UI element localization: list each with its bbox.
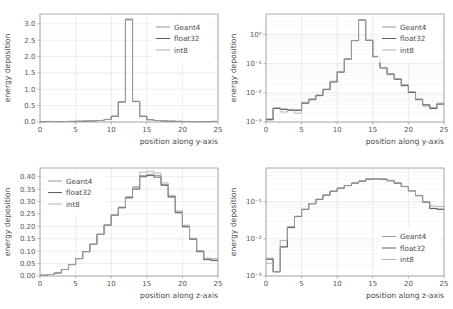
y-axis-label: energy deposition xyxy=(3,188,12,257)
panel-bottom-left: 0.000.050.100.150.200.250.300.350.400510… xyxy=(0,154,227,309)
x-tick-label: 0 xyxy=(264,126,268,134)
y-tick-label: 0.5 xyxy=(24,102,35,110)
y-tick-label: 0.30 xyxy=(20,198,36,206)
x-tick-label: 25 xyxy=(214,280,223,288)
y-tick-label: 0.25 xyxy=(20,210,36,218)
legend: Geant4float32int8 xyxy=(378,228,440,273)
x-tick-label: 15 xyxy=(368,126,377,134)
x-tick-label: 15 xyxy=(142,126,151,134)
x-tick-label: 20 xyxy=(178,280,187,288)
y-tick-label: 1.0 xyxy=(24,86,35,94)
legend-label-float32: float32 xyxy=(66,188,91,197)
panel-bottom-right: 10⁻³10⁻²10⁻¹0510152025position along z-a… xyxy=(226,154,453,309)
x-tick-label: 10 xyxy=(107,126,116,134)
y-tick-label: 0.20 xyxy=(20,223,36,231)
x-tick-label: 15 xyxy=(142,280,151,288)
legend-label-int8: int8 xyxy=(400,255,414,264)
x-tick-label: 5 xyxy=(299,280,303,288)
y-tick-label: 0.15 xyxy=(20,235,36,243)
y-axis-label: energy deposition xyxy=(229,188,238,257)
panel-top-right: 10⁻³10⁻²10⁻¹10⁰0510152025position along … xyxy=(226,0,453,155)
x-tick-label: 0 xyxy=(38,280,42,288)
x-tick-label: 5 xyxy=(73,280,77,288)
y-tick-label: 0.40 xyxy=(20,173,36,181)
legend: Geant4float32int8 xyxy=(152,18,214,63)
x-axis-label: position along z-axis xyxy=(140,291,218,300)
x-tick-label: 0 xyxy=(264,280,268,288)
x-tick-label: 15 xyxy=(368,280,377,288)
x-tick-label: 5 xyxy=(299,126,303,134)
panel-top-left: 0.00.51.01.52.02.53.00510152025position … xyxy=(0,0,227,155)
y-tick-label: 2.0 xyxy=(24,53,35,61)
y-tick-label: 10⁻³ xyxy=(246,272,262,280)
y-tick-label: 0.00 xyxy=(20,272,36,280)
legend-label-int8: int8 xyxy=(400,46,414,55)
x-tick-label: 10 xyxy=(333,126,342,134)
x-tick-label: 10 xyxy=(107,280,116,288)
y-tick-label: 0.35 xyxy=(20,186,36,194)
x-axis-label: position along y-axis xyxy=(366,137,444,146)
y-tick-label: 1.5 xyxy=(24,69,35,77)
y-tick-label: 10⁻² xyxy=(246,89,262,97)
legend: Geant4float32int8 xyxy=(378,18,440,63)
legend-label-int8: int8 xyxy=(174,46,188,55)
y-tick-label: 0.0 xyxy=(24,118,35,126)
x-tick-label: 0 xyxy=(38,126,42,134)
legend-label-geant4: Geant4 xyxy=(174,23,201,32)
legend-label-float32: float32 xyxy=(400,34,425,43)
legend-label-int8: int8 xyxy=(66,200,80,209)
y-tick-label: 10⁻³ xyxy=(246,118,262,126)
y-tick-label: 10⁻² xyxy=(246,235,262,243)
legend-label-geant4: Geant4 xyxy=(66,177,93,186)
y-tick-label: 10⁰ xyxy=(250,31,262,39)
figure-canvas: 0.00.51.01.52.02.53.00510152025position … xyxy=(0,0,453,309)
x-axis-label: position along y-axis xyxy=(140,137,218,146)
x-tick-label: 20 xyxy=(404,280,413,288)
x-tick-label: 25 xyxy=(440,280,449,288)
x-tick-label: 25 xyxy=(214,126,223,134)
legend-label-float32: float32 xyxy=(174,34,199,43)
x-axis-label: position along z-axis xyxy=(366,291,444,300)
legend: Geant4float32int8 xyxy=(44,172,106,217)
x-tick-label: 10 xyxy=(333,280,342,288)
x-tick-label: 20 xyxy=(404,126,413,134)
legend-label-geant4: Geant4 xyxy=(400,23,427,32)
legend-label-geant4: Geant4 xyxy=(400,232,427,241)
y-tick-label: 0.05 xyxy=(20,260,36,268)
legend-label-float32: float32 xyxy=(400,244,425,253)
x-tick-label: 25 xyxy=(440,126,449,134)
y-tick-label: 10⁻¹ xyxy=(246,198,262,206)
y-axis-label: energy deposition xyxy=(229,34,238,103)
x-tick-label: 20 xyxy=(178,126,187,134)
y-tick-label: 2.5 xyxy=(24,37,35,45)
x-tick-label: 5 xyxy=(73,126,77,134)
y-tick-label: 10⁻¹ xyxy=(246,60,262,68)
y-tick-label: 0.10 xyxy=(20,248,36,256)
y-tick-label: 3.0 xyxy=(24,20,35,28)
y-axis-label: energy deposition xyxy=(3,34,12,103)
